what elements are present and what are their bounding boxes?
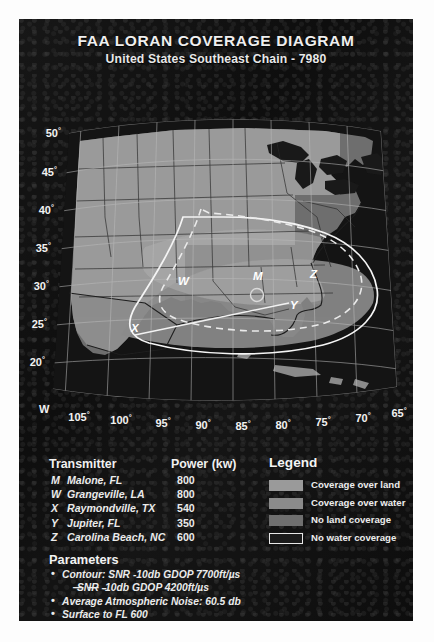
coverage-map: 50° 45° 40° 35° 30° 25° 20° W 105° 100° … bbox=[25, 97, 407, 437]
transmitter-table: Transmitter Power (kw) M Malone, FL 800 … bbox=[49, 457, 245, 545]
marker-Z: Z bbox=[309, 268, 318, 280]
parameter-item-altitude: • Surface to FL 600 bbox=[49, 608, 299, 621]
legend-label: No water coverage bbox=[311, 532, 396, 543]
lon-label-105: 105° bbox=[68, 410, 89, 423]
legend-item-no-land-coverage: No land coverage bbox=[269, 514, 409, 532]
legend-item-coverage-over-water: Coverage over water bbox=[269, 497, 409, 515]
loran-coverage-poster: FAA LORAN COVERAGE DIAGRAM United States… bbox=[0, 0, 434, 642]
poster-panel: FAA LORAN COVERAGE DIAGRAM United States… bbox=[19, 19, 413, 621]
map-canvas bbox=[25, 97, 407, 437]
legend-item-coverage-over-land: Coverage over land bbox=[269, 479, 409, 497]
parameter-item-noise: • Average Atmospheric Noise: 60.5 db bbox=[49, 595, 299, 608]
marker-X: X bbox=[130, 322, 140, 334]
col-header-power: Power (kw) bbox=[171, 457, 236, 471]
row-code: M bbox=[51, 474, 65, 486]
marker-W: W bbox=[178, 275, 190, 287]
parameter-item-dashed-contour: — — - SNR -10db GDOP 4200ft/µs bbox=[49, 581, 299, 594]
row-name: Jupiter, FL bbox=[67, 517, 121, 529]
legend-block: Legend Coverage over land Coverage over … bbox=[269, 455, 409, 549]
lon-label-65: 65° bbox=[391, 406, 406, 419]
row-code: Z bbox=[51, 531, 65, 543]
parameter-text: Average Atmospheric Noise: 60.5 db bbox=[62, 596, 241, 607]
legend-swatch bbox=[269, 480, 303, 491]
legend-label: No land coverage bbox=[311, 514, 391, 525]
row-code: W bbox=[51, 488, 65, 500]
lat-label-50: 50° bbox=[46, 126, 61, 139]
marker-Y: Y bbox=[290, 299, 299, 311]
bullet-icon: • bbox=[51, 607, 55, 620]
lon-label-70: 70° bbox=[355, 411, 370, 424]
bullet-icon: • bbox=[51, 567, 55, 580]
table-row: W Grangeville, LA 800 bbox=[49, 488, 245, 502]
lat-label-25: 25° bbox=[32, 317, 47, 330]
latitude-labels: 50° 45° 40° 35° 30° 25° 20° bbox=[30, 126, 61, 368]
legend-item-no-water-coverage: No water coverage bbox=[269, 532, 409, 550]
lon-label-80: 80° bbox=[275, 418, 290, 431]
parameter-item-contour: • Contour: SNR -10db GDOP 7700ft/µs bbox=[49, 568, 299, 581]
lat-label-45: 45° bbox=[42, 165, 57, 178]
table-row: Y Jupiter, FL 350 bbox=[49, 517, 245, 531]
map-graphic: 50° 45° 40° 35° 30° 25° 20° W 105° 100° … bbox=[25, 97, 407, 437]
legend-label: Coverage over water bbox=[311, 497, 405, 508]
lat-label-35: 35° bbox=[36, 241, 51, 254]
longitude-labels: 105° 100° 95° 90° 85° 80° 75° 70° 65° bbox=[68, 406, 406, 432]
row-name: Carolina Beach, NC bbox=[67, 531, 165, 543]
table-header: Transmitter Power (kw) bbox=[49, 457, 245, 474]
legend-swatch bbox=[269, 498, 303, 509]
lon-label-75: 75° bbox=[315, 415, 330, 428]
legend-swatch bbox=[269, 533, 303, 544]
row-name: Malone, FL bbox=[67, 474, 122, 486]
hemisphere-label-west: W bbox=[39, 403, 50, 415]
row-code: Y bbox=[51, 517, 65, 529]
row-code: X bbox=[51, 502, 65, 514]
title-block: FAA LORAN COVERAGE DIAGRAM United States… bbox=[19, 31, 413, 67]
row-name: Grangeville, LA bbox=[67, 488, 145, 500]
info-section: Transmitter Power (kw) M Malone, FL 800 … bbox=[19, 451, 413, 621]
legend-label: Coverage over land bbox=[311, 479, 400, 490]
row-power: 600 bbox=[177, 531, 195, 543]
lon-label-90: 90° bbox=[195, 418, 210, 431]
parameters-block: Parameters • Contour: SNR -10db GDOP 770… bbox=[49, 552, 299, 621]
parameters-title: Parameters bbox=[49, 552, 299, 568]
row-name: Raymondville, TX bbox=[67, 502, 155, 514]
lat-label-40: 40° bbox=[39, 203, 54, 216]
parameter-text: Contour: SNR -10db GDOP 7700ft/µs bbox=[62, 569, 240, 580]
dashed-line-icon: — — - bbox=[73, 581, 108, 594]
table-row: X Raymondville, TX 540 bbox=[49, 502, 245, 516]
table-row: Z Carolina Beach, NC 600 bbox=[49, 531, 245, 545]
table-row: M Malone, FL 800 bbox=[49, 474, 245, 488]
lat-label-20: 20° bbox=[30, 355, 45, 368]
row-power: 540 bbox=[177, 502, 195, 514]
bullet-icon: • bbox=[51, 594, 55, 607]
row-power: 800 bbox=[177, 488, 195, 500]
legend-title: Legend bbox=[269, 455, 409, 470]
parameter-text: Surface to FL 600 bbox=[62, 609, 148, 620]
col-header-transmitter: Transmitter bbox=[49, 457, 116, 471]
lat-label-30: 30° bbox=[34, 279, 49, 292]
lon-label-85: 85° bbox=[235, 419, 250, 432]
page-title: FAA LORAN COVERAGE DIAGRAM bbox=[19, 31, 413, 50]
legend-swatch bbox=[269, 515, 303, 526]
marker-M: M bbox=[253, 270, 263, 282]
lon-label-100: 100° bbox=[110, 413, 131, 426]
row-power: 350 bbox=[177, 517, 195, 529]
page-subtitle: United States Southeast Chain - 7980 bbox=[19, 51, 413, 67]
lon-label-95: 95° bbox=[155, 416, 170, 429]
row-power: 800 bbox=[177, 474, 195, 486]
